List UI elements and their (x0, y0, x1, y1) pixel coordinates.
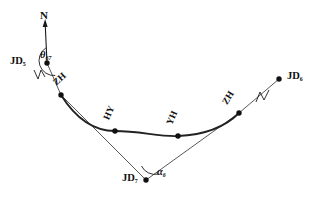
label-jd-left-sub: 5 (23, 61, 26, 67)
alignment-curve (61, 95, 239, 136)
diagram-canvas: N JD5 θ67 ZH HY YH ZH JD6 JD7 α6 (0, 0, 315, 202)
label-jd-right: JD6 (287, 71, 303, 83)
segment-tangent-right (239, 79, 279, 113)
label-alpha-angle: α6 (157, 167, 166, 179)
label-theta-angle: θ67 (40, 50, 51, 62)
dot-yh-right (175, 133, 180, 138)
label-jd-right-text: JD (287, 70, 300, 81)
label-jd-bottom-text: JD (122, 172, 135, 183)
label-theta-sub: 67 (45, 55, 51, 61)
dot-jd-bottom (143, 177, 148, 182)
tangent-lines (47, 63, 279, 180)
north-label: N (40, 10, 48, 21)
break-right-zigzag (256, 90, 269, 102)
label-jd-bottom: JD7 (122, 173, 138, 185)
dot-jd-right (276, 76, 281, 81)
segment-tangent-back-left (61, 95, 146, 180)
break-mark-right (256, 90, 269, 102)
dot-zh-left (58, 92, 63, 97)
label-jd-left: JD5 (10, 56, 26, 68)
label-jd-bottom-sub: 7 (135, 178, 138, 184)
label-jd-right-sub: 6 (300, 76, 303, 82)
label-jd-left-text: JD (10, 55, 23, 66)
vertex-dots (44, 60, 281, 182)
dot-hy-left (112, 128, 117, 133)
dot-zh-right (236, 110, 241, 115)
label-alpha-sub: 6 (163, 172, 166, 178)
